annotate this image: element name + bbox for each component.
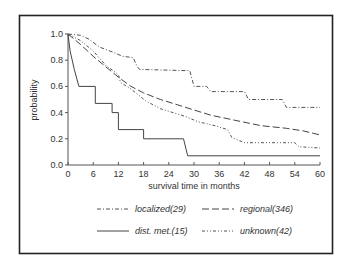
- legend-label-regional: regional(346): [240, 204, 293, 214]
- y-tick-label: 1.0: [50, 29, 63, 39]
- x-tick-label: 24: [164, 169, 174, 179]
- legend-label-unknown: unknown(42): [240, 226, 292, 236]
- legend-label-localized: localized(29): [135, 204, 186, 214]
- x-tick-label: 54: [290, 169, 300, 179]
- y-tick-label: 0.4: [50, 108, 63, 118]
- y-tick-label: 0.8: [50, 55, 63, 65]
- y-tick-label: 0.6: [50, 81, 63, 91]
- x-tick-label: 48: [265, 169, 275, 179]
- x-axis-label: survival time in months: [148, 181, 240, 191]
- x-tick-label: 30: [189, 169, 199, 179]
- y-tick-label: 0.0: [50, 160, 63, 170]
- chart-frame: [20, 16, 333, 254]
- y-tick-label: 0.2: [50, 134, 63, 144]
- x-tick-label: 12: [113, 169, 123, 179]
- x-tick-label: 42: [239, 169, 249, 179]
- x-tick-label: 18: [139, 169, 149, 179]
- y-axis-label: probability: [29, 79, 39, 121]
- x-tick-label: 60: [315, 169, 325, 179]
- x-tick-label: 0: [65, 169, 70, 179]
- legend-label-dist-met: dist. met.(15): [135, 226, 188, 236]
- x-tick-label: 6: [91, 169, 96, 179]
- kaplan-meier-chart: 0.00.20.40.60.81.006121824303642485460 p…: [0, 0, 350, 270]
- x-tick-label: 36: [214, 169, 224, 179]
